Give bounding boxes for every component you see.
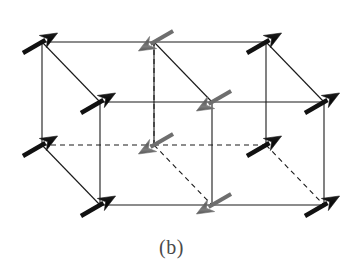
spin-arrow-down [196, 91, 231, 111]
spin-arrow-up [81, 93, 116, 113]
spin-arrow-up [247, 136, 282, 156]
spin-arrow-up [23, 136, 58, 156]
figure-root: (b) [0, 0, 343, 279]
spin-arrow-down [138, 31, 173, 51]
spin-arrow-up [247, 33, 282, 53]
panel-label: (b) [0, 236, 343, 259]
lattice-edge-dashed [266, 145, 324, 205]
spin-arrow-up [305, 196, 340, 216]
arrow-shaft [81, 203, 104, 216]
spin-arrow-up [81, 196, 116, 216]
spin-arrow-down [196, 194, 231, 214]
lattice-edge-solid [266, 42, 324, 102]
spin-arrow-up [23, 33, 58, 53]
lattice-edge-solid [42, 145, 100, 205]
lattice-edge-solid [154, 42, 212, 102]
lattice-edge-dashed [154, 145, 212, 205]
arrow-shaft [23, 143, 46, 156]
spin-arrows [23, 31, 340, 216]
lattice-edge-solid [42, 42, 100, 102]
lattice-edges-solid [42, 42, 324, 205]
lattice-edges-dashed [42, 42, 324, 205]
spin-arrow-down [138, 134, 173, 154]
arrow-shaft [247, 143, 270, 156]
spin-arrow-up [305, 93, 340, 113]
